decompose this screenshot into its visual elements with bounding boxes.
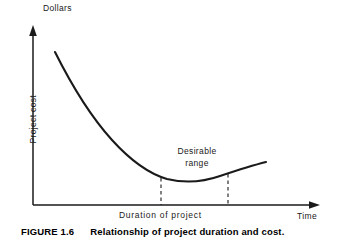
x-axis-label: Duration of project — [119, 211, 202, 220]
y-axis-arrow-label: Dollars — [43, 4, 72, 13]
x-axis-arrowhead — [309, 201, 320, 209]
desirable-range-line-2: range — [166, 158, 228, 170]
desirable-range-line-1: Desirable — [166, 146, 228, 158]
figure-caption: FIGURE 1.6Relationship of project durati… — [21, 226, 284, 237]
figure-caption-text: Relationship of project duration and cos… — [90, 226, 284, 237]
x-axis-arrow-label: Time — [297, 212, 317, 221]
y-axis-arrowhead — [29, 25, 37, 36]
desirable-range-annotation: Desirable range — [166, 146, 228, 169]
figure-container: Dollars Project cost Duration of project… — [0, 0, 343, 242]
figure-number: FIGURE 1.6 — [21, 226, 74, 237]
cost-curve — [55, 52, 266, 181]
y-axis-label: Project cost — [29, 84, 38, 154]
chart-canvas — [0, 0, 343, 242]
